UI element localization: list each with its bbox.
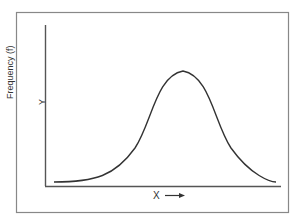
figure-frame — [0, 0, 302, 224]
y-symbol-label: Y — [37, 99, 47, 105]
x-arrow-icon — [165, 193, 185, 198]
y-axis-label: Frequency (f) — [5, 45, 15, 99]
bell-curve — [54, 71, 276, 182]
x-axis-label: X — [153, 190, 160, 201]
